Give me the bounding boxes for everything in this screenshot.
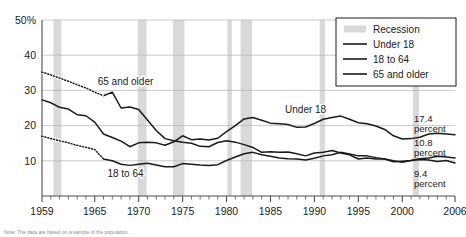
x-tick-label-1959: 1959 [30,205,54,217]
chart-canvas: 1020304050%19591965197019751980198519901… [0,0,466,237]
x-tick-label-1985: 1985 [259,205,283,217]
series-label-65-and-older: 65 and older [98,76,154,87]
x-tick-label-1990: 1990 [303,205,327,217]
recession-band-4 [241,20,252,196]
legend-label-65-and-older: 65 and older [373,69,429,80]
end-label-unit-0: percent [414,123,446,134]
series-dashed-mask [42,136,104,159]
x-axis-ticks [42,196,455,202]
y-tick-label-40: 40 [24,49,36,61]
x-tick-label-2000: 2000 [391,205,415,217]
x-tick-label-1965: 1965 [83,205,107,217]
legend-label-under-18: Under 18 [373,39,415,50]
chart-footnote: Note: The data are based on a sample of … [4,229,129,235]
recession-band-3 [227,20,231,196]
legend-label-18-to-64: 18 to 64 [373,54,410,65]
series-label-18-to-64: 18 to 64 [107,168,144,179]
series-label-under-18: Under 18 [285,104,327,115]
x-tick-label-1980: 1980 [215,205,239,217]
legend-swatch-recession [344,26,366,33]
x-tick-label-2006: 2006 [443,205,466,217]
y-tick-label-20: 20 [24,119,36,131]
y-tick-label-10: 10 [24,155,36,167]
end-label-unit-2: percent [414,178,446,189]
legend-label-recession: Recession [373,24,420,35]
end-label-unit-1: percent [414,147,446,158]
x-tick-label-1975: 1975 [171,205,195,217]
legend: RecessionUnder 1818 to 6465 and older [336,18,456,86]
poverty-rate-by-age-chart: 1020304050%19591965197019751980198519901… [0,0,466,237]
x-tick-label-1970: 1970 [127,205,151,217]
x-axis-labels: 1959196519701975198019851990199520002006 [30,205,466,217]
series-annotations: 65 and older65 and olderUnder 18Under 18… [98,76,327,179]
x-tick-label-1995: 1995 [347,205,371,217]
y-tick-label-30: 30 [24,84,36,96]
recession-band-2 [173,20,184,196]
y-tick-label-50: 50% [15,14,36,26]
end-labels: 17.4percent10.8percent9.4percent [414,113,446,189]
y-axis-labels: 1020304050% [15,14,36,167]
